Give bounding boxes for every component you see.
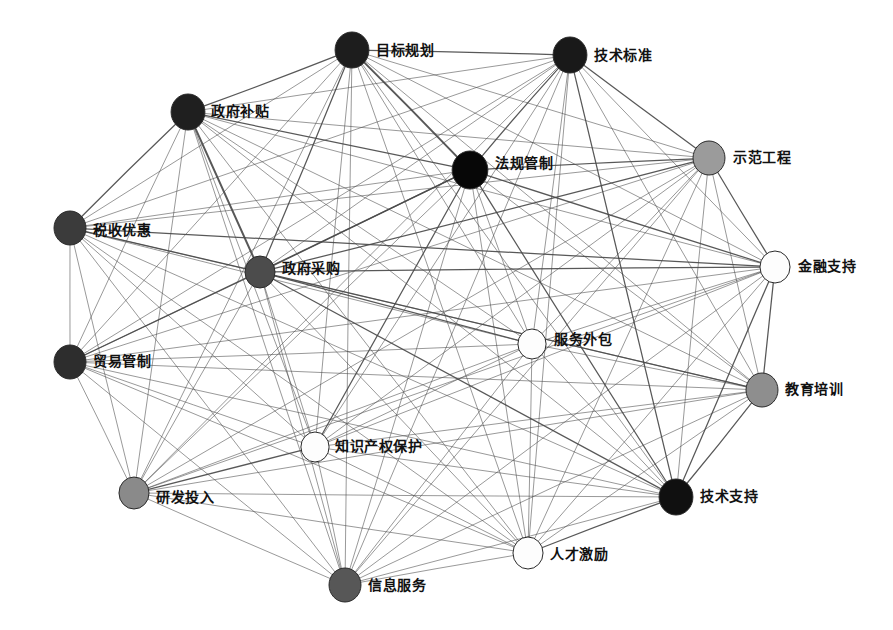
graph-edge [148, 493, 660, 497]
graph-node-label-jishu-zhichi: 技术支持 [700, 488, 758, 504]
graph-node-jinrong-zhichi[interactable] [760, 251, 790, 283]
graph-edge [84, 163, 694, 358]
graph-node-label-xinxi-fuwu: 信息服务 [368, 577, 427, 593]
graph-edge [363, 61, 458, 157]
graph-edge [84, 368, 515, 548]
graph-edge [717, 171, 768, 255]
graph-edge [544, 271, 761, 340]
graph-node-label-shuishou-youhui: 税收优惠 [93, 222, 151, 238]
graph-edge [322, 68, 561, 436]
graph-node-zhengfu-caigou[interactable] [245, 256, 275, 288]
graph-edge [85, 229, 761, 266]
graph-edge [83, 59, 339, 221]
graph-node-shuishou-youhui[interactable] [54, 211, 86, 245]
graph-node-fuwu-waibao[interactable] [518, 329, 546, 359]
graph-edge [195, 127, 255, 260]
graph-edge [203, 56, 337, 107]
graph-node-jiaoyu-peixun[interactable] [746, 373, 778, 407]
graph-edge [141, 284, 253, 481]
graph-node-rencai-jili[interactable] [513, 537, 543, 569]
graph-edge [357, 275, 764, 576]
network-graph: 目标规划技术标准政府补贴法规管制示范工程税收优惠政府采购金融支持服务外包贸易管制… [0, 0, 893, 630]
graph-node-label-shifan-gongcheng: 示范工程 [733, 149, 791, 165]
graph-node-zhishi-chanquan[interactable] [301, 432, 329, 462]
graph-edge [541, 503, 661, 548]
graph-node-yanfa-touru[interactable] [119, 477, 149, 509]
graph-node-label-zhengfu-butie: 政府补贴 [211, 103, 269, 119]
graph-edge [355, 169, 700, 573]
graph-edge [148, 392, 747, 490]
graph-node-shifan-gongcheng[interactable] [693, 141, 725, 175]
graph-edge [147, 349, 520, 489]
graph-node-label-rencai-jili: 人才激励 [550, 546, 608, 562]
graph-edge [274, 267, 761, 272]
graph-edge [193, 127, 340, 571]
graph-edge [83, 63, 557, 354]
graph-node-zhengfu-butie[interactable] [171, 94, 205, 130]
graph-edge [264, 285, 311, 434]
graph-node-label-yanfa-touru: 研发投入 [156, 489, 214, 505]
graph-node-jishu-biaozhun[interactable] [553, 37, 587, 73]
graph-edge [147, 272, 762, 489]
graph-edge [583, 65, 697, 150]
graph-edge [77, 376, 128, 481]
graph-edge [316, 66, 350, 434]
graph-edge [85, 269, 761, 360]
graph-node-fagui-guanzhi[interactable] [452, 151, 488, 189]
graph-node-label-jishu-biaozhun: 技术标准 [594, 47, 652, 63]
graph-edge [274, 276, 520, 341]
graph-edge [541, 169, 699, 335]
graph-node-xinxi-fuwu[interactable] [329, 568, 361, 602]
graph-edge [79, 240, 336, 573]
graph-edge [81, 123, 177, 217]
graph-edge [686, 402, 753, 485]
graph-node-label-zhengfu-caigou: 政府采购 [282, 260, 340, 276]
network-diagram-canvas: 目标规划技术标准政府补贴法规管制示范工程税收优惠政府采购金融支持服务外包贸易管制… [0, 0, 893, 630]
graph-node-mubiao-guihua[interactable] [335, 32, 369, 68]
graph-edge [486, 175, 762, 263]
graph-edge [84, 60, 555, 223]
graph-edge [147, 499, 331, 579]
graph-edge [204, 113, 694, 156]
graph-edge [354, 354, 524, 573]
graph-edge [272, 279, 662, 490]
graph-edge [204, 115, 454, 166]
graph-edge [84, 367, 303, 443]
graph-edge [327, 350, 521, 442]
graph-edge [84, 278, 248, 356]
graph-node-label-jiaoyu-peixun: 教育培训 [785, 381, 843, 397]
graph-edge [361, 63, 666, 484]
graph-edge [85, 365, 661, 493]
graph-node-maoyi-guanzhi[interactable] [54, 345, 86, 379]
graph-node-label-maoyi-guanzhi: 贸易管制 [93, 353, 151, 369]
graph-edge [360, 64, 525, 333]
graph-edge [764, 281, 774, 375]
graph-node-jishu-zhichi[interactable] [659, 479, 693, 515]
graph-edge [264, 286, 341, 571]
graph-edge [136, 128, 186, 479]
graph-edge [270, 282, 519, 543]
graph-node-label-jinrong-zhichi: 金融支持 [797, 258, 856, 274]
graph-edge [85, 172, 453, 225]
graph-node-label-fagui-guanzhi: 法规管制 [495, 155, 553, 171]
graph-node-label-fuwu-waibao: 服务外包 [554, 331, 612, 347]
graph-node-label-mubiao-guihua: 目标规划 [376, 42, 434, 58]
graph-node-label-zhishi-chanquan: 知识产权保护 [335, 438, 422, 454]
graph-edge [204, 57, 554, 109]
